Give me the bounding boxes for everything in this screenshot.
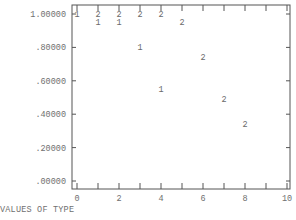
data-points: 1111122222222 (74, 10, 247, 130)
x-axis-label: VALUES OF TYPE (0, 205, 74, 215)
x-tick-label: 6 (200, 194, 205, 204)
data-point-series-2: 2 (158, 10, 163, 20)
y-tick-label: .60000 (35, 77, 66, 87)
data-point-series-2: 2 (137, 10, 142, 20)
data-point-series-2: 2 (95, 10, 100, 20)
y-tick-label: 1.00000 (30, 10, 66, 20)
data-point-series-2: 2 (221, 95, 226, 105)
x-tick-label: 2 (116, 194, 121, 204)
plot-frame (72, 5, 290, 189)
x-tick-label: 0 (74, 194, 79, 204)
x-tick-label: 10 (282, 194, 292, 204)
x-axis-ticks: 0246810 (74, 5, 292, 204)
y-tick-label: .40000 (35, 110, 66, 120)
data-point-series-2: 2 (200, 53, 205, 63)
x-tick-label: 4 (158, 194, 163, 204)
plot-border (72, 5, 290, 189)
scatter-plot: 1.00000.80000.60000.40000.20000.00000 02… (0, 0, 296, 220)
x-tick-label: 8 (242, 194, 247, 204)
y-tick-label: .20000 (35, 144, 66, 154)
data-point-series-1: 1 (158, 85, 163, 95)
data-point-series-2: 2 (242, 120, 247, 130)
data-point-series-1: 1 (137, 43, 142, 53)
data-point-series-1: 1 (74, 10, 79, 20)
y-tick-label: .00000 (35, 177, 66, 187)
y-tick-label: .80000 (35, 43, 66, 53)
data-point-series-2: 2 (116, 10, 121, 20)
y-axis-ticks: 1.00000.80000.60000.40000.20000.00000 (30, 10, 290, 187)
data-point-series-2: 2 (179, 18, 184, 28)
